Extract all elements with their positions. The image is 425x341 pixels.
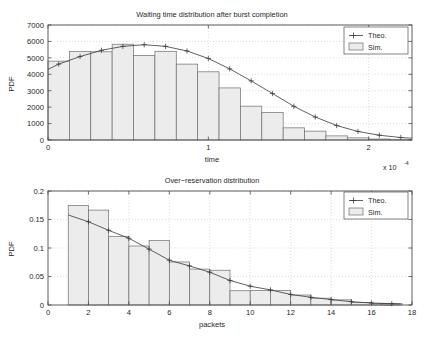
plus-marker-icon	[227, 66, 232, 71]
y-tick-label: 0	[40, 136, 44, 145]
figure-canvas: 01201000200030004000500060007000 Waiting…	[0, 0, 425, 341]
legend-label-sim-top: Sim.	[368, 43, 382, 52]
over-reservation-svg: 02468101214161800.050.10.150.2 Over−rese…	[0, 169, 425, 341]
plus-marker-icon	[206, 56, 211, 61]
chart-title-bottom: Over−reservation distribution	[165, 176, 260, 185]
x-tick-label: 18	[408, 308, 416, 317]
y-tick-label: 0.05	[29, 272, 44, 281]
plus-marker-icon	[142, 42, 147, 47]
bar	[283, 128, 304, 140]
x-axis-label-top: time	[205, 155, 219, 164]
chart-title-top: Waiting time distribution after burst co…	[136, 10, 287, 19]
y-tick-label: 1000	[27, 119, 44, 128]
y-tick-label: 5000	[27, 54, 44, 63]
x-tick-label: 14	[327, 308, 335, 317]
x-tick-label: 8	[208, 308, 212, 317]
bar	[91, 52, 112, 140]
x-tick-label: 16	[367, 308, 375, 317]
plus-marker-icon	[291, 104, 296, 109]
legend-bottom[interactable]: Theo. Sim.	[344, 192, 408, 219]
y-tick-label: 0.1	[33, 244, 44, 253]
bar	[210, 270, 230, 305]
plus-marker-icon	[249, 78, 254, 83]
bar	[176, 64, 197, 140]
bar	[48, 61, 69, 140]
bar	[155, 51, 176, 140]
chart-waiting-time: 01201000200030004000500060007000 Waiting…	[0, 0, 425, 172]
bar	[219, 88, 240, 140]
exponent-power: -4	[404, 160, 409, 166]
y-tick-label: 0.2	[33, 187, 44, 196]
legend-label-theo-top: Theo.	[368, 31, 386, 40]
x-tick-label: 0	[46, 308, 50, 317]
plus-marker-icon	[377, 133, 382, 138]
plus-marker-icon	[355, 129, 360, 134]
bar	[149, 241, 169, 305]
plus-marker-icon	[334, 123, 339, 128]
y-axis-label-bottom: PDF	[7, 241, 16, 257]
plus-marker-icon	[184, 48, 189, 53]
bar-series-sim-top	[48, 44, 411, 140]
bar	[109, 236, 129, 305]
y-tick-label: 0.15	[29, 215, 44, 224]
x-tick-label: 2	[367, 143, 371, 152]
legend-top[interactable]: Theo. Sim.	[344, 27, 408, 54]
legend-swatch-sim-top	[349, 43, 363, 50]
x-axis-label-bottom: packets	[199, 320, 225, 329]
x-tick-label: 6	[167, 308, 171, 317]
plus-marker-icon	[163, 44, 168, 49]
bar	[198, 72, 219, 140]
bar	[305, 131, 326, 140]
bar-series-sim-bottom	[68, 206, 402, 305]
bar	[69, 52, 90, 140]
plus-marker-icon	[313, 114, 318, 119]
bar	[230, 291, 250, 305]
y-tick-label: 4000	[27, 70, 44, 79]
y-tick-label: 7000	[27, 21, 44, 30]
chart-over-reservation: 02468101214161800.050.10.150.2 Over−rese…	[0, 169, 425, 341]
bar	[169, 262, 189, 305]
legend-swatch-sim-bottom	[349, 208, 363, 215]
y-tick-label: 3000	[27, 87, 44, 96]
x-tick-label: 10	[246, 308, 254, 317]
bar	[88, 210, 108, 305]
x-tick-label: 12	[286, 308, 294, 317]
y-axis-label-top: PDF	[7, 76, 16, 92]
bar	[250, 290, 270, 305]
y-tick-label: 6000	[27, 37, 44, 46]
bar	[134, 55, 155, 140]
bar	[190, 269, 210, 305]
waiting-time-svg: 01201000200030004000500060007000 Waiting…	[0, 0, 425, 172]
plus-marker-icon	[270, 91, 275, 96]
x-tick-label: 4	[127, 308, 131, 317]
legend-label-sim-bottom: Sim.	[368, 208, 382, 217]
x-tick-label: 0	[46, 143, 50, 152]
y-tick-label: 2000	[27, 103, 44, 112]
bar	[270, 290, 290, 305]
bar	[240, 106, 261, 140]
plus-marker-icon	[248, 284, 253, 289]
plus-marker-icon	[389, 301, 394, 306]
bar	[326, 136, 347, 140]
bar	[112, 44, 133, 140]
x-tick-label: 1	[206, 143, 210, 152]
bar	[262, 112, 283, 140]
x-tick-label: 2	[86, 308, 90, 317]
bar	[129, 246, 149, 305]
legend-label-theo-bottom: Theo.	[368, 196, 386, 205]
y-tick-label: 0	[40, 301, 44, 310]
